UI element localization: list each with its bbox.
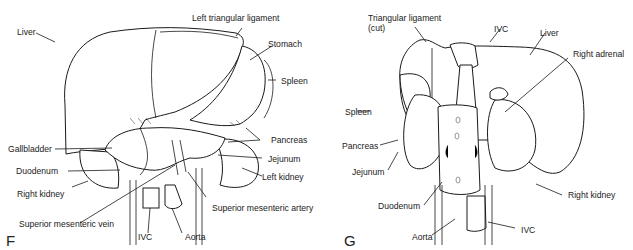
label-spleen: Spleen <box>345 107 372 117</box>
panel-letter-f: F <box>6 233 15 249</box>
label-pancreas: Pancreas <box>271 135 307 145</box>
label-right-kidney: Right kidney <box>17 189 64 199</box>
label-ivc-bottom: IVC <box>521 225 535 235</box>
label-stomach: Stomach <box>268 39 302 49</box>
label-spleen: Spleen <box>281 76 308 86</box>
label-left-kidney: Left kidney <box>262 172 304 182</box>
posterior-abdominal-organs-drawing <box>320 0 633 250</box>
label-right-kidney: Right kidney <box>568 190 615 200</box>
label-pancreas: Pancreas <box>342 141 378 151</box>
label-triangular-ligament-cut-note: (cut) <box>368 23 385 33</box>
label-superior-mesenteric-artery: Superior mesenteric artery <box>212 203 313 213</box>
label-jejunum: Jejunum <box>268 154 300 164</box>
label-duodenum: Duodenum <box>378 201 420 211</box>
figure-f-anterior-view: Liver Left triangular ligament Stomach S… <box>0 0 320 250</box>
label-left-triangular-ligament: Left triangular ligament <box>192 13 279 23</box>
label-liver: Liver <box>17 27 36 37</box>
label-liver: Liver <box>540 28 559 38</box>
label-right-adrenal: Right adrenal <box>573 49 624 59</box>
panel-letter-g: G <box>344 233 356 249</box>
label-aorta: Aorta <box>412 232 433 242</box>
label-gallbladder: Gallbladder <box>8 144 52 154</box>
label-ivc: IVC <box>138 232 152 242</box>
label-aorta: Aorta <box>185 232 206 242</box>
label-ivc-top: IVC <box>494 24 508 34</box>
label-duodenum: Duodenum <box>16 166 58 176</box>
figure-g-posterior-view: Triangular ligament (cut) IVC Liver Righ… <box>320 0 633 250</box>
label-triangular-ligament: Triangular ligament <box>368 13 441 23</box>
label-superior-mesenteric-vein: Superior mesenteric vein <box>19 219 114 229</box>
label-jejunum: Jejunum <box>352 167 384 177</box>
